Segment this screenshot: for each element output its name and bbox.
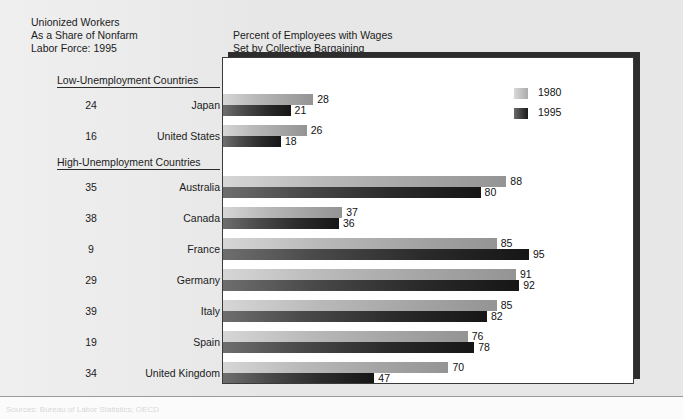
union-share-row: 34United Kingdom <box>31 367 220 397</box>
bar-1995 <box>223 342 474 353</box>
country-label: Canada <box>183 212 220 224</box>
bar-value-label: 78 <box>478 342 490 353</box>
union-share-value: 16 <box>76 130 106 142</box>
bar-value-label: 18 <box>285 136 297 147</box>
bar-value-label: 28 <box>317 94 329 105</box>
union-share-row: 16United States <box>31 130 220 160</box>
union-share-row: 24Japan <box>31 99 220 129</box>
country-label: Spain <box>193 336 220 348</box>
country-label: United States <box>157 130 220 142</box>
country-label: Japan <box>191 99 220 111</box>
bar-1995 <box>223 280 519 291</box>
bar-value-label: 82 <box>491 311 503 322</box>
legend-label-1980: 1980 <box>538 86 561 98</box>
bar-group: 3736 <box>223 207 633 229</box>
bar-1980 <box>223 176 506 187</box>
bar-value-label: 92 <box>523 280 535 291</box>
union-share-row: 9France <box>31 243 220 273</box>
union-share-value: 9 <box>76 243 106 255</box>
country-label: Germany <box>177 274 220 286</box>
legend-label-1995: 1995 <box>538 106 561 118</box>
country-label: United Kingdom <box>145 367 220 379</box>
bar-1995 <box>223 218 339 229</box>
union-share-value: 34 <box>76 367 106 379</box>
bar-value-label: 80 <box>485 187 497 198</box>
bar-1995 <box>223 311 487 322</box>
union-share-value: 24 <box>76 99 106 111</box>
union-share-row: 39Italy <box>31 305 220 335</box>
country-label: Australia <box>179 181 220 193</box>
union-share-row: 38Canada <box>31 212 220 242</box>
country-label: Italy <box>201 305 220 317</box>
union-share-value: 35 <box>76 181 106 193</box>
bar-1995 <box>223 373 374 384</box>
chart-page: Unionized Workers As a Share of Nonfarm … <box>0 0 683 419</box>
bar-value-label: 88 <box>510 176 522 187</box>
bar-1980 <box>223 207 342 218</box>
section-header-low-unemployment: Low-Unemployment Countries <box>57 74 220 88</box>
bar-1980 <box>223 300 497 311</box>
union-share-value: 39 <box>76 305 106 317</box>
legend-swatch-1995 <box>514 108 528 119</box>
bar-1980 <box>223 238 497 249</box>
plot-area: 282126188880373685959192858276787047 <box>223 58 633 383</box>
bar-value-label: 26 <box>311 125 323 136</box>
country-label: France <box>187 243 220 255</box>
bar-value-label: 47 <box>378 373 390 384</box>
bar-value-label: 70 <box>452 362 464 373</box>
footer-caption: Sources: Bureau of Labor Statistics; OEC… <box>6 405 336 414</box>
bar-value-label: 85 <box>501 238 513 249</box>
bar-group: 2821 <box>223 94 633 116</box>
bar-1995 <box>223 105 291 116</box>
bar-1995 <box>223 187 481 198</box>
union-share-row: 35Australia <box>31 181 220 211</box>
legend-swatch-1980 <box>514 88 528 99</box>
union-share-value: 38 <box>76 212 106 224</box>
bar-1980 <box>223 362 448 373</box>
bar-value-label: 21 <box>295 105 307 116</box>
bar-value-label: 95 <box>533 249 545 260</box>
left-column-title: Unionized Workers As a Share of Nonfarm … <box>31 16 138 55</box>
bar-group: 2618 <box>223 125 633 147</box>
bar-group: 7047 <box>223 362 633 384</box>
union-share-row: 19Spain <box>31 336 220 366</box>
chart-frame: 282126188880373685959192858276787047 198… <box>222 57 634 384</box>
bar-group: 9192 <box>223 269 633 291</box>
bar-group: 7678 <box>223 331 633 353</box>
bar-group: 8595 <box>223 238 633 260</box>
bar-group: 8582 <box>223 300 633 322</box>
bar-1995 <box>223 136 281 147</box>
bar-1995 <box>223 249 529 260</box>
bar-1980 <box>223 269 516 280</box>
bar-1980 <box>223 331 468 342</box>
union-share-value: 19 <box>76 336 106 348</box>
bar-value-label: 36 <box>343 218 355 229</box>
union-share-value: 29 <box>76 274 106 286</box>
union-share-row: 29Germany <box>31 274 220 304</box>
bar-group: 8880 <box>223 176 633 198</box>
